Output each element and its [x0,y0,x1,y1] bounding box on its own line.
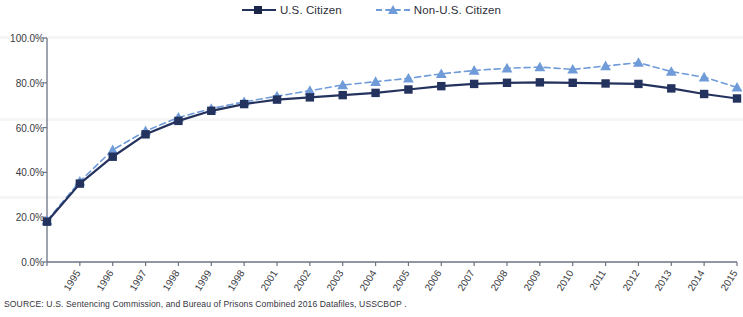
series-group [42,57,743,226]
y-axis-tick-label: 20.0% [0,212,44,223]
data-point-marker [404,85,412,93]
data-point-marker [207,107,215,115]
data-point-marker [699,72,710,82]
data-point-marker [601,79,609,87]
data-point-marker [470,80,478,88]
series-line-us-citizen [47,82,737,221]
data-point-marker [700,90,708,98]
data-point-marker [240,100,248,108]
data-point-marker [536,78,544,86]
y-axis-tick-labels: 0.0%20.0%40.0%60.0%80.0%100.0% [0,0,44,317]
data-point-marker [403,73,414,83]
data-point-marker [273,95,281,103]
source-note: SOURCE: U.S. Sentencing Commission, and … [4,299,407,309]
data-point-marker [634,80,642,88]
data-point-marker [437,82,445,90]
data-point-marker [141,130,149,138]
data-point-marker [733,94,741,102]
y-axis-tick-label: 0.0% [0,257,44,268]
axis-group [43,38,737,266]
data-point-marker [43,217,51,225]
data-point-marker [371,89,379,97]
series-line-non-us-citizen [47,63,737,221]
y-axis-tick-label: 100.0% [0,33,44,44]
data-point-marker [503,79,511,87]
chart-container: U.S. Citizen Non-U.S. Citizen 0.0%20.0%4… [0,0,743,317]
data-point-marker [76,179,84,187]
y-axis-tick-label: 80.0% [0,77,44,88]
data-point-marker [109,153,117,161]
y-axis-tick-label: 60.0% [0,122,44,133]
data-point-marker [174,117,182,125]
data-point-marker [306,93,314,101]
plot-area [0,0,743,317]
data-point-marker [633,57,644,67]
y-axis-tick-label: 40.0% [0,167,44,178]
data-point-marker [569,79,577,87]
data-point-marker [667,84,675,92]
data-point-marker [339,91,347,99]
